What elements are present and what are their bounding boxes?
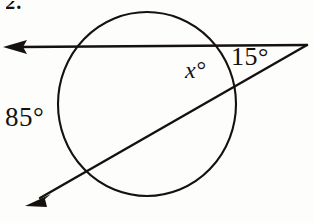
arc-label-x: x° [185,58,205,82]
geometry-figure: 2. 85° x° 15° [0,0,314,223]
angle-label-15: 15° [231,44,269,70]
lower-secant-arrowhead-icon [25,194,51,207]
figure-canvas [0,0,314,223]
arc-label-85: 85° [5,104,44,131]
problem-number: 2. [6,0,23,12]
circle-shape [58,12,236,196]
